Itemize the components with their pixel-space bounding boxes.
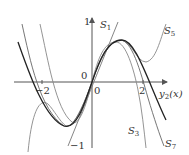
x-tick-two: 2 xyxy=(139,86,145,96)
label-s3: S3 xyxy=(128,126,139,138)
y-tick-minus-one: −1 xyxy=(70,141,85,151)
x-axis-label: y2(x) xyxy=(159,89,183,101)
label-s5: S5 xyxy=(164,26,175,38)
label-s7: S7 xyxy=(165,139,176,151)
plot-area xyxy=(0,0,189,155)
curve-s1 xyxy=(68,22,118,146)
origin-y-label: 0 xyxy=(81,71,87,81)
origin-x-label: 0 xyxy=(94,86,100,96)
y-tick-one: 1 xyxy=(84,17,90,27)
chart-figure: 1 −1 0 0 −2 2 S1 S5 S3 S7 y2(x) xyxy=(0,0,189,155)
label-s1: S1 xyxy=(100,20,111,32)
x-tick-minus-two: −2 xyxy=(35,86,50,96)
